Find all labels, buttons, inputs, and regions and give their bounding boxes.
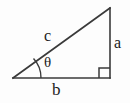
label-hypotenuse-c: c [44,28,51,44]
triangle-drawing [0,0,130,103]
side-c-line [13,8,110,78]
right-triangle-figure: c a b θ [0,0,130,103]
label-opposite-a: a [114,35,121,51]
label-adjacent-b: b [52,81,61,98]
right-angle-marker [99,68,110,78]
label-angle-theta: θ [44,55,51,70]
